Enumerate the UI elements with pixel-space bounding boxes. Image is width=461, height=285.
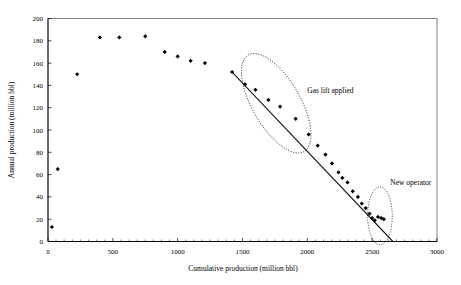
x-tick-label-0: 0 <box>46 248 50 256</box>
chart-container: 050010001500200025003000 020406080100120… <box>0 0 461 285</box>
y-tick-label-80: 80 <box>36 149 44 157</box>
y-tick-label-40: 40 <box>36 193 44 201</box>
x-axis-label: Cumulative production (million bbl) <box>188 264 298 273</box>
y-tick-label-180: 180 <box>33 37 44 45</box>
y-tick-label-100: 100 <box>33 127 44 135</box>
y-tick-label-140: 140 <box>33 82 44 90</box>
y-tick-label-160: 160 <box>33 60 44 68</box>
production-decline-scatter-chart: 050010001500200025003000 020406080100120… <box>0 0 461 285</box>
x-tick-label-3000: 3000 <box>430 248 445 256</box>
annotation-label-gas-lift: Gas lift applied <box>307 86 353 95</box>
y-tick-label-0: 0 <box>40 238 44 246</box>
y-tick-label-120: 120 <box>33 104 44 112</box>
chart-background <box>0 0 461 285</box>
x-tick-label-2000: 2000 <box>300 248 315 256</box>
x-tick-label-1500: 1500 <box>236 248 251 256</box>
x-tick-label-1000: 1000 <box>171 248 186 256</box>
x-tick-label-2500: 2500 <box>365 248 380 256</box>
y-axis-label: Annual production (million bbl) <box>7 81 16 178</box>
x-tick-label-500: 500 <box>108 248 119 256</box>
y-tick-label-20: 20 <box>36 216 44 224</box>
annotation-label-new-operator: New operator <box>390 178 432 187</box>
y-tick-label-200: 200 <box>33 15 44 23</box>
y-tick-label-60: 60 <box>36 171 44 179</box>
